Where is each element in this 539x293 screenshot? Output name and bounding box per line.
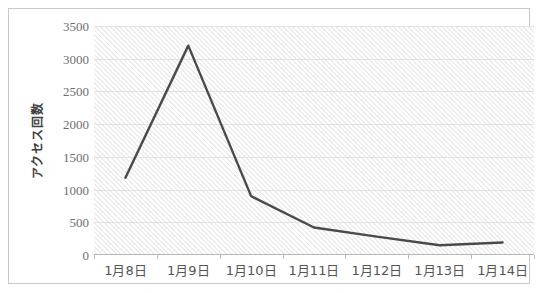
y-tick-label: 500 xyxy=(45,216,89,229)
y-tick-label: 3500 xyxy=(45,20,89,33)
y-tick-label: 3000 xyxy=(45,52,89,65)
y-tick-label: 1500 xyxy=(45,150,89,163)
x-tick-mark xyxy=(94,255,95,259)
x-tick-mark xyxy=(534,255,535,259)
x-tick-mark xyxy=(283,255,284,259)
x-tick-mark xyxy=(220,255,221,259)
x-tick-label: 1月9日 xyxy=(157,261,220,283)
x-tick-label: 1月8日 xyxy=(94,261,157,283)
x-tick-label: 1月12日 xyxy=(345,261,408,283)
y-tick-label: 2000 xyxy=(45,118,89,131)
x-tick-mark xyxy=(157,255,158,259)
series-line-chart xyxy=(94,26,534,255)
y-tick-label: 1000 xyxy=(45,183,89,196)
y-axis-tick-labels: 3500 3000 2500 2000 1500 1000 500 0 xyxy=(39,26,89,255)
series-line xyxy=(125,46,502,246)
x-tick-label: 1月11日 xyxy=(283,261,346,283)
y-tick-label: 2500 xyxy=(45,85,89,98)
x-tick-label: 1月10日 xyxy=(220,261,283,283)
chart-frame: アクセス回数 3500 3000 2500 2000 1500 1000 500… xyxy=(8,8,530,284)
x-tick-mark xyxy=(471,255,472,259)
x-tick-label: 1月14日 xyxy=(471,261,534,283)
y-tick-label: 0 xyxy=(45,249,89,262)
x-tick-mark xyxy=(408,255,409,259)
x-tick-label: 1月13日 xyxy=(408,261,471,283)
x-axis-line xyxy=(94,254,534,255)
x-axis-tick-labels: 1月8日 1月9日 1月10日 1月11日 1月12日 1月13日 1月14日 xyxy=(94,261,534,283)
x-tick-mark xyxy=(345,255,346,259)
plot-area xyxy=(94,26,534,255)
